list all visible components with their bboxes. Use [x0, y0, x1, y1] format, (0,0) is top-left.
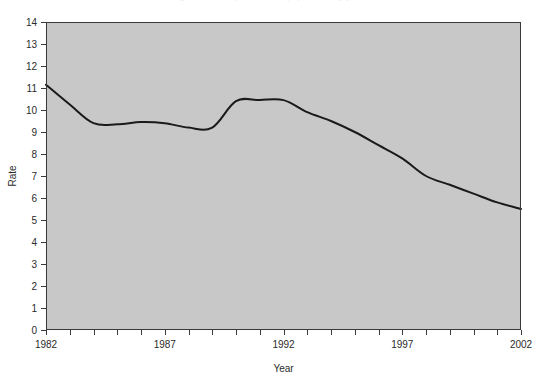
svg-text:4: 4	[31, 237, 37, 248]
svg-text:14: 14	[26, 17, 38, 28]
svg-text:13: 13	[26, 39, 38, 50]
x-axis-ticks: 19821987199219972002	[35, 330, 533, 350]
svg-text:9: 9	[31, 127, 37, 138]
svg-text:8: 8	[31, 149, 37, 160]
svg-text:10: 10	[26, 105, 38, 116]
svg-text:1997: 1997	[391, 339, 414, 350]
svg-text:1982: 1982	[35, 339, 58, 350]
svg-text:1: 1	[31, 303, 37, 314]
x-axis-title: Year	[273, 363, 294, 374]
svg-text:0: 0	[31, 325, 37, 336]
svg-text:12: 12	[26, 61, 38, 72]
y-axis-ticks: 01234567891011121314	[26, 17, 46, 336]
svg-text:1992: 1992	[272, 339, 295, 350]
y-axis-title: Rate	[7, 165, 18, 187]
plot-background	[46, 22, 521, 330]
svg-text:6: 6	[31, 193, 37, 204]
svg-text:5: 5	[31, 215, 37, 226]
svg-text:11: 11	[27, 83, 38, 94]
svg-text:2: 2	[31, 281, 37, 292]
svg-text:3: 3	[31, 259, 37, 270]
svg-text:2002: 2002	[510, 339, 533, 350]
svg-text:1987: 1987	[154, 339, 177, 350]
svg-text:7: 7	[31, 171, 37, 182]
chart-container: Figure 1. Rate per 100,000 population by…	[0, 0, 536, 375]
line-chart: 01234567891011121314 1982198719921997200…	[0, 0, 536, 375]
